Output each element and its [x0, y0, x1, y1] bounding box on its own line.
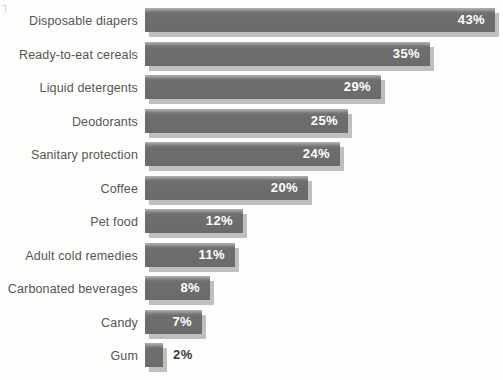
category-label: Coffee: [0, 176, 138, 202]
category-label: Pet food: [0, 209, 138, 235]
category-label: Liquid detergents: [0, 75, 138, 101]
bar-row: Liquid detergents29%: [0, 75, 503, 109]
bar-value-label: 43%: [458, 8, 485, 32]
category-label: Gum: [0, 343, 138, 369]
bar-value-label: 2%: [173, 343, 193, 367]
bar-row: Sanitary protection24%: [0, 142, 503, 176]
bar-value-label: 8%: [180, 276, 200, 300]
bar: 29%: [145, 75, 381, 101]
bar-row: Pet food12%: [0, 209, 503, 243]
bar-fill: [145, 276, 210, 300]
bar-value-label: 24%: [303, 142, 330, 166]
bar-value-label: 29%: [344, 75, 371, 99]
bar-fill: [145, 42, 430, 66]
bar-value-label: 7%: [172, 310, 192, 334]
bar: 8%: [145, 276, 210, 302]
bar-row: Gum2%: [0, 343, 503, 377]
bar: 7%: [145, 310, 202, 336]
bar-row: Deodorants25%: [0, 109, 503, 143]
category-label: Deodorants: [0, 109, 138, 135]
bar-value-label: 20%: [271, 176, 298, 200]
bar-row: Candy7%: [0, 310, 503, 344]
category-label: Adult cold remedies: [0, 243, 138, 269]
bar-row: Adult cold remedies11%: [0, 243, 503, 277]
bar-row: Disposable diapers43%: [0, 8, 503, 42]
bar-value-label: 11%: [198, 243, 225, 267]
category-label: Candy: [0, 310, 138, 336]
bar: 20%: [145, 176, 308, 202]
bar-fill: [145, 343, 163, 367]
bar: 24%: [145, 142, 340, 168]
bar: 35%: [145, 42, 430, 68]
bar-row: Carbonated beverages8%: [0, 276, 503, 310]
bar: 25%: [145, 109, 348, 135]
bar-row: Coffee20%: [0, 176, 503, 210]
horizontal-bar-chart: ┐ Disposable diapers43%Ready-to-eat cere…: [0, 0, 503, 380]
bar: 12%: [145, 209, 243, 235]
bar: 43%: [145, 8, 495, 34]
category-label: Carbonated beverages: [0, 276, 138, 302]
bar-fill: [145, 8, 495, 32]
bar-value-label: 25%: [311, 109, 338, 133]
chart-plot-area: Disposable diapers43%Ready-to-eat cereal…: [0, 0, 503, 380]
category-label: Ready-to-eat cereals: [0, 42, 138, 68]
category-label: Disposable diapers: [0, 8, 138, 34]
bar-value-label: 12%: [206, 209, 233, 233]
bar-value-label: 35%: [393, 42, 420, 66]
bar-row: Ready-to-eat cereals35%: [0, 42, 503, 76]
bar: 11%: [145, 243, 235, 269]
category-label: Sanitary protection: [0, 142, 138, 168]
bar: 2%: [145, 343, 163, 369]
